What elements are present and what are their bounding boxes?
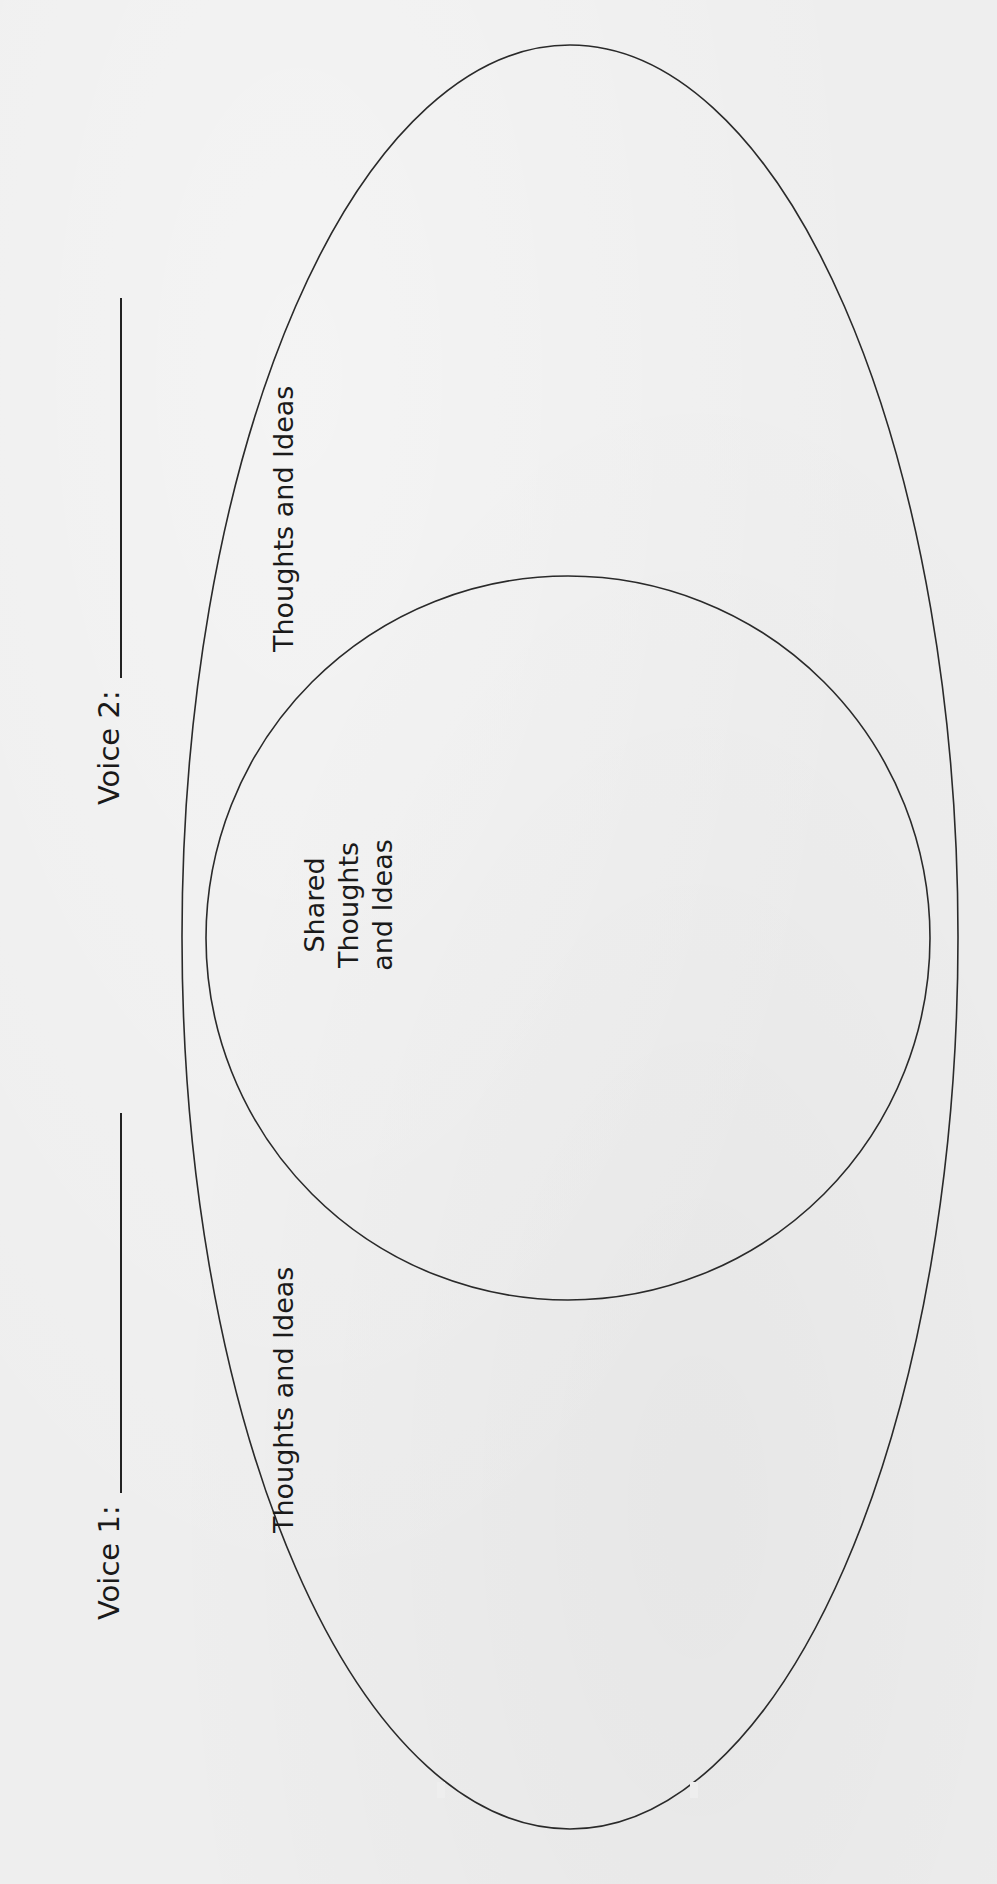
ellipse-gap-left xyxy=(437,1782,445,1798)
shared-label-line-1: Shared Thoughts xyxy=(298,795,366,1015)
voice-2-label: Voice 2: xyxy=(95,690,124,805)
voice-1-region-label: Thoughts and Ideas xyxy=(270,1267,297,1533)
voice-2-field[interactable]: Voice 2: xyxy=(95,298,124,805)
voice-1-field[interactable]: Voice 1: xyxy=(95,1113,124,1620)
shared-region-label: Shared Thoughts and Ideas xyxy=(298,795,399,1015)
voice-2-input-line[interactable] xyxy=(119,298,122,678)
voice-1-input-line[interactable] xyxy=(119,1113,122,1493)
venn-diagram xyxy=(0,0,997,1884)
ellipse-gap-right xyxy=(690,1782,698,1798)
voice-1-label: Voice 1: xyxy=(95,1505,124,1620)
voice-2-region-label: Thoughts and Ideas xyxy=(270,386,297,652)
shared-label-line-2: and Ideas xyxy=(366,795,400,1015)
